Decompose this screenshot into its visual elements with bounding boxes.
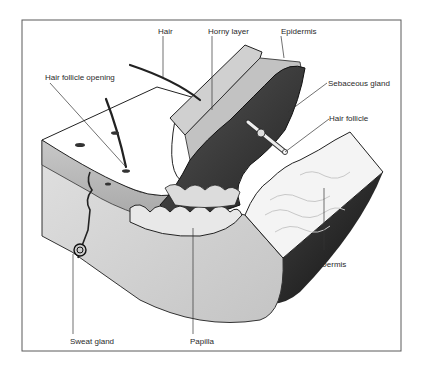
label-dermis: Dermis (321, 260, 346, 269)
label-sweat-gland: Sweat gland (70, 337, 114, 346)
leader-epidermis (281, 36, 284, 58)
skin-diagram: Hair Horny layer Epidermis Hair follicle… (0, 0, 421, 368)
label-epidermis: Epidermis (281, 27, 317, 36)
label-hair-follicle-opening: Hair follicle opening (45, 73, 115, 82)
label-horny-layer: Horny layer (208, 27, 249, 36)
papillae-upper (165, 184, 240, 207)
skin-illustration (0, 0, 421, 368)
sebaceous-gland-shape (257, 129, 265, 137)
label-sebaceous-gland: Sebaceous gland (328, 79, 390, 88)
label-hair: Hair (158, 27, 173, 36)
label-papilla: Papilla (190, 337, 214, 346)
sweat-gland-coil (74, 244, 86, 256)
label-hair-follicle: Hair follicle (329, 114, 368, 123)
leader-hair-follicle (285, 119, 329, 152)
